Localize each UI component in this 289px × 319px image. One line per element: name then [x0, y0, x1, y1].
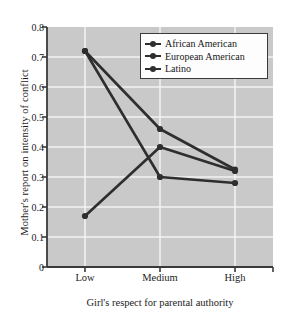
legend-label: Latino [165, 63, 191, 74]
legend-marker-icon [145, 64, 161, 74]
y-tick-label: 0.2 [14, 202, 44, 213]
legend-item-european-american: European American [145, 50, 263, 62]
x-tick-label-high: High [225, 272, 246, 283]
x-axis-label: Girl's respect for parental authority [47, 297, 273, 308]
y-tick-label: 0.1 [14, 232, 44, 243]
x-tick-label-low: Low [75, 272, 94, 283]
data-point [157, 144, 163, 150]
data-point [232, 180, 238, 186]
data-point [157, 174, 163, 180]
x-tick-label-medium: Medium [142, 272, 178, 283]
legend-label: European American [165, 51, 245, 62]
data-point [157, 126, 163, 132]
legend-item-latino: Latino [145, 63, 263, 75]
y-tick-label: 0.4 [14, 142, 44, 153]
data-point [232, 168, 238, 174]
data-point [82, 48, 88, 54]
chart-legend: African American European American Latin… [140, 33, 268, 79]
y-tick-label: 0.5 [14, 112, 44, 123]
legend-item-african-american: African American [145, 38, 263, 50]
legend-marker-icon [145, 51, 161, 61]
chart-figure: Mother's report on intensity of conflict… [0, 0, 289, 319]
y-tick-label: 0.7 [14, 52, 44, 63]
y-tick-label: 0.3 [14, 172, 44, 183]
y-tick-label: 0.8 [14, 22, 44, 33]
data-point [82, 213, 88, 219]
legend-marker-icon [145, 39, 161, 49]
y-tick-label: 0.6 [14, 82, 44, 93]
y-axis-tick-labels: 0.8 0.7 0.6 0.5 0.4 0.3 0.2 0.1 0 [10, 0, 44, 319]
legend-label: African American [165, 38, 237, 49]
y-tick-label: 0 [14, 262, 44, 273]
